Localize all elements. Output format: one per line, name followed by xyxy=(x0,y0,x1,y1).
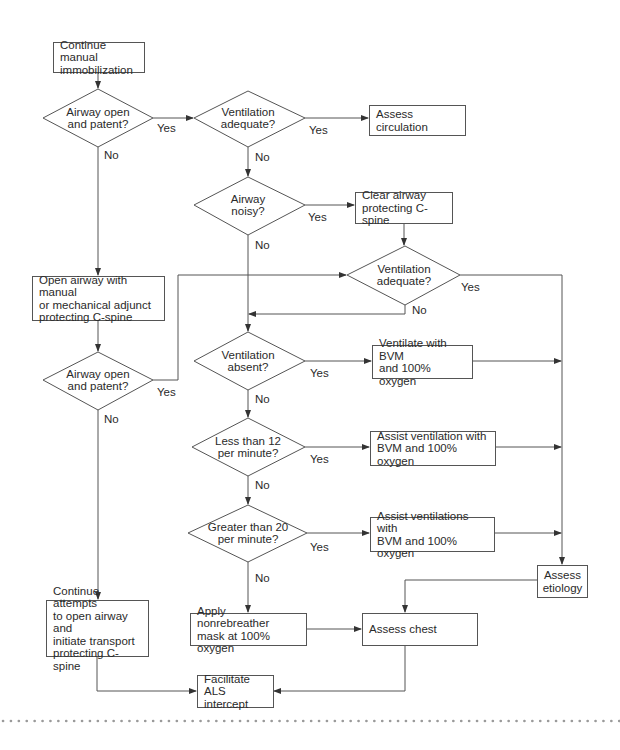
node-text: Airway open and patent? xyxy=(66,106,129,131)
node-text: Open airway with manual or mechanical ad… xyxy=(39,274,158,324)
box-open-airway: Open airway with manual or mechanical ad… xyxy=(32,276,165,321)
edge-label-yes: Yes xyxy=(310,367,329,379)
edge-label-yes: Yes xyxy=(309,124,328,136)
edge-label-no: No xyxy=(255,151,270,163)
node-text: Assess chest xyxy=(369,623,437,636)
node-text: Continue attempts to open airway and ini… xyxy=(53,585,142,673)
edge-label-yes: Yes xyxy=(157,386,176,398)
edge-label-yes: Yes xyxy=(461,281,480,293)
diamond-label-ventilation-absent: Ventilation absent? xyxy=(198,347,298,375)
box-facilitate-als: Facilitate ALS intercept xyxy=(197,675,274,708)
node-text: Assess circulation xyxy=(376,108,459,133)
diamond-label-less-than-12: Less than 12 per minute? xyxy=(198,433,298,461)
edge-label-yes: Yes xyxy=(157,122,176,134)
box-assess-circulation: Assess circulation xyxy=(369,105,466,136)
edge-label-yes: Yes xyxy=(310,453,329,465)
diamond-label-airway-open-1: Airway open and patent? xyxy=(48,104,148,132)
box-continue-manual-immobilization: Continue manual immobilization xyxy=(53,42,145,73)
box-assess-chest: Assess chest xyxy=(362,613,478,646)
node-text: Airway open and patent? xyxy=(66,368,129,393)
node-text: Apply nonrebreather mask at 100% oxygen xyxy=(197,605,300,655)
edge-label-yes: Yes xyxy=(308,211,327,223)
box-clear-airway: Clear airway protecting C-spine xyxy=(355,192,453,224)
edge-label-no: No xyxy=(255,239,270,251)
box-ventilate-bvm: Ventilate with BVM and 100% oxygen xyxy=(372,345,473,379)
node-text: Ventilation adequate? xyxy=(221,106,275,131)
edge-label-no: No xyxy=(412,304,427,316)
node-text: Assist ventilation with BVM and 100% oxy… xyxy=(377,430,489,468)
diamond-label-airway-open-2: Airway open and patent? xyxy=(48,366,148,394)
box-apply-nonrebreather: Apply nonrebreather mask at 100% oxygen xyxy=(190,613,307,646)
node-text: Assist ventilations with BVM and 100% ox… xyxy=(377,510,488,560)
edge-label-no: No xyxy=(255,572,270,584)
diamond-label-greater-than-20: Greater than 20 per minute? xyxy=(193,519,303,547)
node-text: Ventilation adequate? xyxy=(377,263,431,288)
node-text: Airway noisy? xyxy=(231,193,266,218)
diamond-label-ventilation-adequate-2: Ventilation adequate? xyxy=(354,261,454,289)
node-text: Ventilate with BVM and 100% oxygen xyxy=(379,337,466,387)
node-text: Greater than 20 per minute? xyxy=(208,521,289,546)
box-assess-etiology: Assess etiology xyxy=(537,565,588,598)
edge-label-no: No xyxy=(255,479,270,491)
diamond-label-ventilation-adequate-1: Ventilation adequate? xyxy=(198,104,298,132)
node-text: Assess etiology xyxy=(543,569,583,594)
edge-label-no: No xyxy=(104,149,119,161)
box-assist-ventilation: Assist ventilation with BVM and 100% oxy… xyxy=(370,431,496,466)
node-text: Continue manual immobilization xyxy=(60,39,138,77)
box-continue-attempts: Continue attempts to open airway and ini… xyxy=(46,600,149,657)
box-assist-ventilations: Assist ventilations with BVM and 100% ox… xyxy=(370,517,495,552)
node-text: Facilitate ALS intercept xyxy=(204,673,267,711)
edge-label-no: No xyxy=(255,393,270,405)
node-text: Clear airway protecting C-spine xyxy=(362,189,446,227)
node-text: Less than 12 per minute? xyxy=(215,435,281,460)
diamond-label-airway-noisy: Airway noisy? xyxy=(198,191,298,219)
edge-label-no: No xyxy=(104,413,119,425)
edge-label-yes: Yes xyxy=(310,541,329,553)
node-text: Ventilation absent? xyxy=(221,349,274,374)
